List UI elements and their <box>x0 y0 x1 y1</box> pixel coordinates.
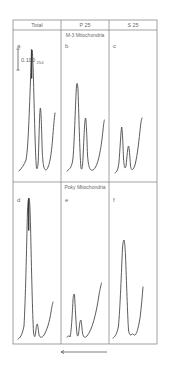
trace-e <box>67 283 102 337</box>
sedimentation-profile-figure: Total P 25 S 25 M-3 Mitochondria Poky Mi… <box>0 0 169 366</box>
trace-c <box>115 118 142 173</box>
figure-grid <box>13 20 157 344</box>
column-headers: Total P 25 S 25 <box>31 22 138 28</box>
trace-b <box>67 83 104 171</box>
section-label-m3: M-3 Mitochondria <box>66 32 105 38</box>
panel-label-b: b <box>65 43 69 49</box>
panel-label-f: f <box>113 197 115 203</box>
scale-bar: 0.100 254 <box>17 49 45 70</box>
panel-label-d: d <box>17 197 20 203</box>
column-header-p25: P 25 <box>80 22 91 28</box>
panel-label-a: a <box>17 43 21 49</box>
trace-d <box>18 198 53 339</box>
trace-f <box>113 240 143 338</box>
sedimentation-direction-arrow <box>61 350 107 353</box>
trace-a <box>19 50 55 171</box>
column-header-total: Total <box>31 22 42 28</box>
panel-label-c: c <box>113 43 116 49</box>
panel-label-e: e <box>65 197 69 203</box>
section-label-poky: Poky Mitochondria <box>64 184 105 190</box>
scale-bar-subscript: 254 <box>37 60 45 65</box>
column-header-s25: S 25 <box>127 22 138 28</box>
